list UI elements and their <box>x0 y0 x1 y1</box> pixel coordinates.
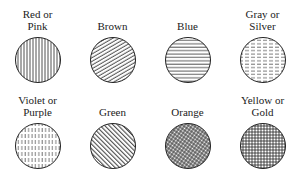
pattern-fill-grid-crosshatch <box>241 124 286 169</box>
swatch-label-line2: Gold <box>225 106 300 118</box>
swatch-label-line1: Gray or <box>225 8 300 20</box>
pattern-fill-diagonal-lines-rising <box>91 38 136 83</box>
pattern-fill-horizontal-lines <box>166 38 211 83</box>
swatch-label-line2: Pink <box>0 20 75 32</box>
swatch-label-line2: Green <box>75 106 150 118</box>
hatched-circle-red-or-pink <box>14 36 62 84</box>
hatched-circle-violet-or-purple <box>14 122 62 170</box>
swatch-label-line2: Brown <box>75 20 150 32</box>
swatch-label-line2: Orange <box>150 106 225 118</box>
hatched-circle-gray-or-silver <box>239 36 287 84</box>
hatched-circle-green <box>89 122 137 170</box>
pattern-fill-horizontal-dashed-lines <box>241 38 286 83</box>
swatch-label-line2: Silver <box>225 20 300 32</box>
pattern-fill-diagonal-lines-falling <box>91 124 136 169</box>
swatch-label-line1: Violet or <box>0 94 75 106</box>
swatch-label-line2: Purple <box>0 106 75 118</box>
swatch-label-line2: Blue <box>150 20 225 32</box>
hatched-circle-blue <box>164 36 212 84</box>
hatched-circle-orange <box>164 122 212 170</box>
hatched-circle-brown <box>89 36 137 84</box>
pattern-fill-diagonal-crosshatch <box>166 124 211 169</box>
hatched-circle-yellow-or-gold <box>239 122 287 170</box>
swatch-label-line1: Red or <box>0 8 75 20</box>
pattern-fill-vertical-dashed-lines <box>16 124 61 169</box>
pattern-fill-vertical-lines <box>16 38 61 83</box>
swatch-label-line1: Yellow or <box>225 94 300 106</box>
